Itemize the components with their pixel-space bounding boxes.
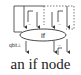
dots-label-input-2: ...	[58, 21, 61, 26]
qbit-label: qbit⊥	[9, 42, 21, 48]
output-gamma-bracket	[58, 48, 62, 55]
solid-loop-left	[14, 6, 44, 32]
dots-label: ...	[57, 41, 61, 47]
diagram-caption: an if node	[0, 56, 81, 72]
dots-label-input-1: ...	[28, 21, 31, 26]
